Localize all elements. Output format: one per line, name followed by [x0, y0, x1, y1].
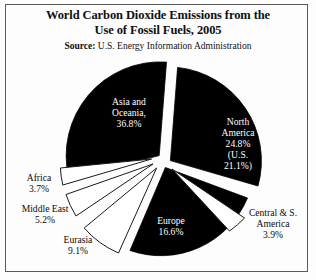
pie-chart: Asia and Oceania, 36.8% North America 24…	[0, 0, 316, 280]
slice-label-north-value: 24.8%	[196, 138, 280, 149]
slice-label-eurasia-value: 9.1%	[42, 245, 114, 256]
slice-label-north-sub-1: (U.S.	[196, 149, 280, 160]
slice-label-europe: Europe 16.6%	[133, 215, 209, 237]
slice-label-central-line-1: Central & S.	[233, 207, 313, 218]
slice-label-eurasia: Eurasia 9.1%	[42, 234, 114, 256]
slice-label-north-line-1: North	[196, 116, 280, 127]
slice-label-central-and-s-america: Central & S. America 3.9%	[233, 207, 313, 240]
slice-label-eurasia-line-1: Eurasia	[42, 234, 114, 245]
slice-label-europe-line-1: Europe	[133, 215, 209, 226]
slice-label-middle-east-value: 5.2%	[4, 214, 86, 225]
slice-label-north-line-2: America	[196, 127, 280, 138]
chart-figure: World Carbon Dioxide Emissions from the …	[0, 0, 316, 280]
slice-label-central-value: 3.9%	[233, 229, 313, 240]
slice-label-asia-and-oceania: Asia and Oceania, 36.8%	[83, 96, 175, 129]
slice-label-middle-east-line-1: Middle East	[4, 203, 86, 214]
slice-label-africa: Africa 3.7%	[8, 172, 70, 194]
slice-label-africa-value: 3.7%	[8, 183, 70, 194]
slice-label-north-america: North America 24.8% (U.S. 21.1%)	[196, 116, 280, 171]
slice-label-asia-value: 36.8%	[83, 118, 175, 129]
slice-label-north-sub-2: 21.1%)	[196, 160, 280, 171]
slice-label-asia-line-1: Asia and	[83, 96, 175, 107]
slice-label-central-line-2: America	[233, 218, 313, 229]
slice-label-africa-line-1: Africa	[8, 172, 70, 183]
slice-label-asia-line-2: Oceania,	[83, 107, 175, 118]
slice-label-europe-value: 16.6%	[133, 226, 209, 237]
slice-label-middle-east: Middle East 5.2%	[4, 203, 86, 225]
